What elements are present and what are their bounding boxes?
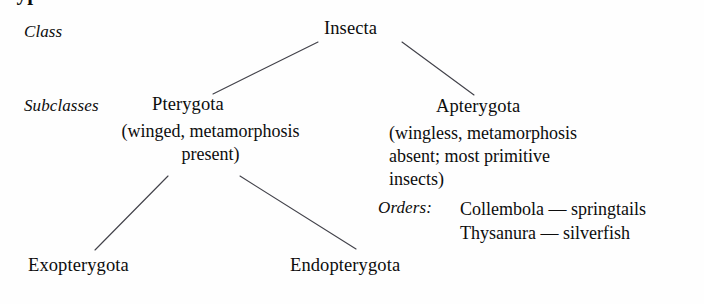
taxon-node-pterygota: Pterygota [152, 94, 224, 116]
description-line: (winged, metamorphosis [88, 120, 333, 143]
connector-insecta-to-apterygota [402, 42, 474, 95]
taxon-description-apterygota: (wingless, metamorphosis absent; most pr… [389, 122, 577, 191]
taxon-node-insecta: Insecta [324, 18, 377, 40]
description-line: absent; most primitive [389, 145, 577, 168]
order-item: Thysanura — silverfish [460, 222, 646, 246]
rank-label-orders: Orders: [378, 198, 432, 218]
rank-label-subclasses: Subclasses [24, 96, 99, 116]
taxon-node-apterygota: Apterygota [436, 96, 520, 118]
orders-list: Collembola — springtails Thysanura — sil… [460, 198, 646, 246]
description-line: (wingless, metamorphosis [389, 122, 577, 145]
rank-label-class: Class [24, 22, 62, 42]
order-item: Collembola — springtails [460, 198, 646, 222]
figure-title-text: Hypothetical classification of the class… [0, 0, 704, 6]
description-line: insects) [389, 168, 577, 191]
taxon-node-endopterygota: Endopterygota [290, 255, 400, 277]
connector-pterygota-to-exopterygota [95, 176, 168, 250]
taxon-node-exopterygota: Exopterygota [28, 255, 129, 277]
figure-title-cropped: Hypothetical classification of the class… [0, 0, 704, 11]
taxon-description-pterygota: (winged, metamorphosis present) [88, 120, 333, 166]
connector-insecta-to-pterygota [213, 42, 318, 94]
connector-pterygota-to-endopterygota [240, 176, 356, 249]
figure-canvas: Hypothetical classification of the class… [0, 0, 704, 304]
description-line: present) [88, 143, 333, 166]
